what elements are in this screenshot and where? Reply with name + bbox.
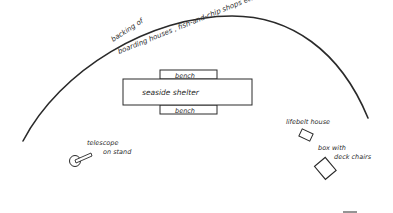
deck-chairs-label-line1: box with: [318, 144, 346, 152]
bench-bottom-label: bench: [175, 107, 195, 115]
telescope-icon: [70, 153, 93, 167]
seaside-site-plan: backing of boarding houses , fish-and-ch…: [0, 0, 393, 213]
deck-chairs-box: [314, 157, 336, 179]
telescope-label-line2: on stand: [103, 148, 132, 156]
telescope-label-line1: telescope: [87, 139, 118, 147]
seaside-shelter-label: seaside shelter: [142, 88, 200, 97]
bench-top-label: bench: [175, 72, 195, 80]
lifebelt-house-label: lifebelt house: [286, 118, 330, 126]
lifebelt-house-box: [299, 129, 313, 141]
deck-chairs-label-line2: deck chairs: [334, 153, 372, 161]
